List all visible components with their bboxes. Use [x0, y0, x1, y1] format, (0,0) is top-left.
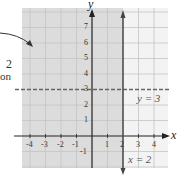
y-tick-label: 5 [84, 54, 88, 62]
x-tick-label: -2 [57, 141, 64, 149]
y-tick-label: 4 [84, 70, 88, 78]
horizontal-line-label: y = 3 [137, 93, 160, 104]
x-tick-label: 3 [136, 141, 140, 149]
line-arrow-down-icon [121, 168, 126, 175]
y-tick-label: 2 [84, 101, 88, 109]
x-tick-label: -4 [26, 141, 33, 149]
vertical-line-label: x = 2 [128, 154, 151, 165]
y-tick-label: 6 [84, 39, 88, 47]
coordinate-plane [0, 0, 179, 180]
inequality-graph: y x -4 -3 -2 -1 1 2 3 4 7 6 5 4 3 2 1 -1… [0, 0, 179, 180]
annotation-text-line2: on [0, 71, 11, 82]
x-axis-label: x [171, 129, 176, 141]
y-tick-label: -1 [80, 148, 87, 156]
x-tick-label: 1 [105, 141, 109, 149]
y-tick-label: 3 [84, 85, 88, 93]
x-tick-label: -1 [72, 141, 79, 149]
annotation-text-line1: 2 [6, 58, 12, 70]
x-tick-label: 2 [120, 141, 124, 149]
x-tick-label: -3 [41, 141, 48, 149]
y-tick-label: 1 [84, 116, 88, 124]
x-tick-label: 4 [152, 141, 156, 149]
y-tick-label: 7 [84, 23, 88, 31]
y-axis-label: y [88, 0, 93, 10]
